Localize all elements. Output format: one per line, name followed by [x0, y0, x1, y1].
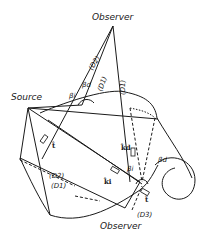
t-hat-left-label: t̂: [52, 142, 55, 149]
t-hat-bottom-label: t̂: [145, 196, 148, 203]
k-i-label: k̂i: [104, 178, 112, 185]
ray-d3: [132, 186, 142, 210]
beta-d-bottom-label: βd: [158, 157, 167, 164]
d2-bottom-label: (D2): [49, 173, 64, 180]
ray-d1-top-b: [113, 26, 130, 182]
ray-source-4: [20, 108, 28, 160]
dashed-ray-d1-bottom: [75, 196, 100, 201]
t-hat-arrow-left: [40, 135, 48, 144]
d3-bottom-label: (D3): [137, 212, 152, 219]
beta-i-bottom-label: βi: [127, 166, 133, 173]
observer-bottom-label: Observer: [100, 222, 141, 231]
dashed-ray-d2-bottom: [20, 160, 75, 186]
ray-bottom-triangle: [20, 158, 140, 208]
k-d-arrow: [131, 148, 135, 156]
diffraction-geometry-diagram: [0, 0, 207, 241]
source-label: Source: [11, 93, 42, 102]
d1-top-label-b: (D1): [120, 80, 127, 95]
dashed-ray-2: [142, 118, 155, 182]
ray-source-5: [28, 108, 50, 215]
k-d-label: k̂d: [121, 144, 131, 151]
ray-source-1: [28, 108, 158, 119]
beta-i-top-label: βi: [69, 93, 75, 100]
d1-bottom-label: (D1): [51, 183, 66, 190]
ray-source-2: [28, 105, 82, 108]
cone-surface-right-edge: [157, 118, 192, 178]
observer-top-label: Observer: [92, 13, 133, 22]
beta-arc-top: [78, 99, 94, 105]
beta-d-top-label: βd: [82, 82, 91, 89]
